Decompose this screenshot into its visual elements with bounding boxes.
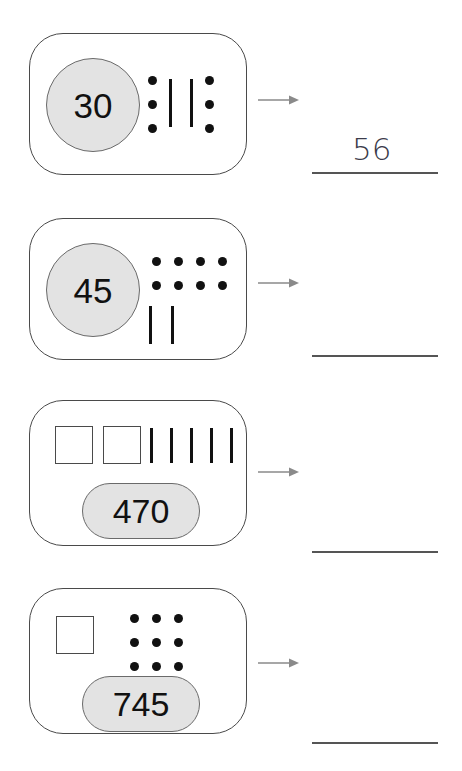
hundreds-square (56, 616, 94, 654)
dot-group-4 (123, 606, 189, 678)
dot (152, 614, 161, 623)
dot (148, 100, 157, 109)
dot (152, 281, 161, 290)
dot (148, 124, 157, 133)
dot (196, 281, 205, 290)
square-group-4 (56, 616, 94, 654)
dot (205, 76, 214, 85)
number-badge-label: 45 (74, 273, 113, 308)
number-badge-label: 30 (74, 88, 113, 123)
problem-card-1[interactable]: 30 (29, 33, 247, 175)
answer-line-1[interactable] (312, 172, 438, 174)
tens-bar (210, 428, 213, 463)
hundreds-square (55, 426, 93, 464)
dot-group-1-right (204, 68, 215, 140)
dot (152, 257, 161, 266)
problem-card-4[interactable]: 745 (29, 588, 247, 734)
dot (130, 662, 139, 671)
number-badge-label: 745 (113, 687, 170, 721)
right-arrow-icon-2 (258, 275, 300, 291)
dot (130, 638, 139, 647)
tens-bar (150, 428, 153, 463)
bar-group-3 (150, 428, 233, 463)
dot (152, 662, 161, 671)
tens-bar (169, 79, 172, 127)
hundreds-square (103, 426, 141, 464)
right-arrow-icon-1 (258, 92, 300, 108)
right-arrow-icon-4 (258, 655, 300, 671)
tens-bar (190, 428, 193, 463)
dot (174, 281, 183, 290)
answer-line-2[interactable] (312, 355, 438, 357)
number-badge-1: 30 (46, 58, 140, 152)
answer-line-4[interactable] (312, 742, 438, 744)
bar-group-2 (149, 306, 174, 344)
number-badge-4: 745 (82, 676, 200, 732)
dot (174, 257, 183, 266)
tens-bar (171, 306, 174, 344)
number-badge-2: 45 (46, 243, 140, 337)
dot (152, 638, 161, 647)
dot (218, 281, 227, 290)
dot (174, 662, 183, 671)
dot (148, 76, 157, 85)
number-badge-label: 470 (113, 494, 170, 528)
tens-bar (170, 428, 173, 463)
dot (174, 638, 183, 647)
dot (218, 257, 227, 266)
dot-group-2 (145, 249, 233, 297)
problem-card-2[interactable]: 45 (29, 218, 247, 360)
dot (205, 100, 214, 109)
dot (205, 124, 214, 133)
problem-card-3[interactable]: 470 (29, 400, 247, 546)
bar-group-1 (169, 79, 193, 127)
dot (196, 257, 205, 266)
dot (130, 614, 139, 623)
answer-value-1: 56 (352, 131, 391, 167)
dot (174, 614, 183, 623)
tens-bar (149, 306, 152, 344)
answer-line-3[interactable] (312, 551, 438, 553)
square-group-3 (55, 426, 141, 464)
tens-bar (230, 428, 233, 463)
tens-bar (190, 79, 193, 127)
right-arrow-icon-3 (258, 464, 300, 480)
number-badge-3: 470 (82, 483, 200, 539)
dot-group-1-left (147, 68, 158, 140)
